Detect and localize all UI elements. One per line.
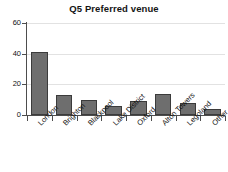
bar xyxy=(56,95,72,115)
chart-title: Q5 Preferred venue xyxy=(0,3,228,14)
bar xyxy=(130,101,146,115)
y-tick-label-20: 20 xyxy=(0,80,21,88)
x-tick-mark-3 xyxy=(101,116,102,121)
x-tick-mark-7 xyxy=(200,116,201,121)
y-tick-label-60: 60 xyxy=(0,19,21,27)
bar xyxy=(180,103,196,115)
bar xyxy=(81,100,97,115)
bar xyxy=(105,106,121,115)
bar-chart: Q5 Preferred venue 60 40 20 0 LondonBrig… xyxy=(0,0,228,172)
bars-container xyxy=(27,23,225,115)
x-tick-mark-8 xyxy=(225,116,226,121)
x-tick-mark-4 xyxy=(126,116,127,121)
x-tick-mark-6 xyxy=(176,116,177,121)
bar xyxy=(204,109,220,115)
bar xyxy=(155,94,171,115)
y-tick-label-40: 40 xyxy=(0,50,21,58)
bar xyxy=(31,52,47,115)
x-tick-mark-5 xyxy=(151,116,152,121)
x-tick-mark-1 xyxy=(52,116,53,121)
y-tick-label-0: 0 xyxy=(0,111,21,119)
x-tick-mark-2 xyxy=(77,116,78,121)
x-tick-mark-0 xyxy=(27,116,28,121)
